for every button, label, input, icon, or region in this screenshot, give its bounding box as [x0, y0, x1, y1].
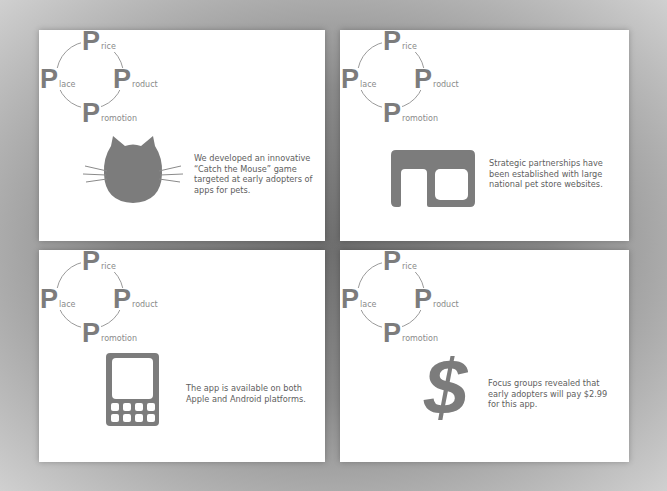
diagram-item-product: Product [413, 68, 459, 90]
diagram-item-place: Place [39, 68, 75, 90]
panel-caption: Focus groups revealed that early adopter… [488, 378, 610, 410]
four-p-diagram: Price Place Product Promotion [340, 30, 460, 130]
diagram-item-place: Place [39, 288, 75, 310]
diagram-item-promotion: Promotion [81, 102, 137, 124]
panel-place: Price Place Product Promotion Strategic … [340, 30, 629, 241]
panel-promotion: Price Place Product Promotion The app is… [39, 250, 325, 462]
four-p-diagram: Price Place Product Promotion [340, 250, 460, 350]
panel-product: Price Place Product Promotion We develop… [39, 30, 325, 241]
diagram-item-promotion: Promotion [81, 322, 137, 344]
diagram-item-promotion: Promotion [382, 322, 438, 344]
diagram-item-price: Price [382, 30, 417, 52]
diagram-item-price: Price [382, 250, 417, 272]
diagram-item-product: Product [112, 68, 158, 90]
cat-icon [83, 136, 183, 206]
diagram-item-price: Price [81, 30, 116, 52]
diagram-item-product: Product [413, 288, 459, 310]
diagram-item-place: Place [340, 68, 376, 90]
panel-caption: The app is available on both Apple and A… [186, 383, 306, 404]
four-p-diagram: Price Place Product Promotion [39, 30, 159, 130]
panel-caption: Strategic partnerships have been establi… [489, 158, 621, 190]
diagram-item-price: Price [81, 250, 116, 272]
partnership-icon [391, 150, 475, 207]
diagram-item-place: Place [340, 288, 376, 310]
phone-icon [106, 353, 159, 426]
diagram-item-promotion: Promotion [382, 102, 438, 124]
diagram-item-product: Product [112, 288, 158, 310]
panel-price: Price Place Product Promotion $ Focus gr… [340, 250, 629, 462]
panel-caption: We developed an innovative “Catch the Mo… [194, 153, 319, 195]
dollar-icon: $ [424, 348, 467, 426]
four-p-diagram: Price Place Product Promotion [39, 250, 159, 350]
